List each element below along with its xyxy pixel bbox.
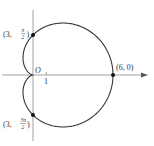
x-axis-arrow-icon bbox=[141, 73, 148, 78]
svg-text:): ) bbox=[27, 120, 30, 129]
svg-text:): ) bbox=[27, 30, 30, 39]
svg-text:π: π bbox=[22, 27, 25, 33]
polar-graph: O 1 (3, π 2 ) (6, 0) (3, 3π 2 ) bbox=[0, 0, 154, 146]
svg-text:3π: 3π bbox=[20, 117, 27, 123]
label-3-3pi-over-2: (3, 3π 2 ) bbox=[3, 117, 30, 130]
svg-text:2: 2 bbox=[22, 34, 25, 40]
label-6-0: (6, 0) bbox=[116, 63, 134, 72]
point-6-0 bbox=[111, 73, 115, 77]
origin-label: O bbox=[35, 66, 41, 75]
tick-label-1: 1 bbox=[44, 77, 48, 86]
svg-text:2: 2 bbox=[22, 124, 25, 130]
point-3-pi-over-2 bbox=[31, 33, 35, 37]
svg-text:(3,: (3, bbox=[3, 120, 12, 129]
label-3-pi-over-2: (3, π 2 ) bbox=[3, 27, 30, 40]
svg-text:(3,: (3, bbox=[3, 30, 12, 39]
point-3-3pi-over-2 bbox=[31, 113, 35, 117]
